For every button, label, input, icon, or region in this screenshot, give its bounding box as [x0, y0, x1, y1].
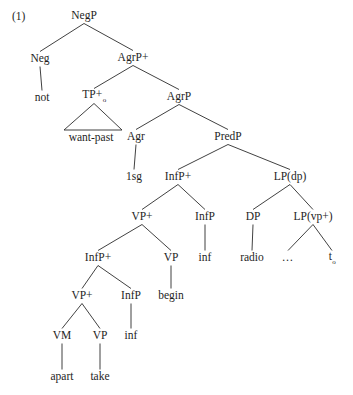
tree-node-want_past: want-past [69, 132, 114, 144]
tree-node-text: AgrP+ [118, 51, 149, 63]
tree-node-lp_vp: LP(vp+) [293, 211, 332, 223]
tree-node-agrp_plus: AgrP+ [118, 52, 149, 64]
tree-node-infp_plus1: InfP+ [165, 171, 191, 183]
tree-edge-lp_vp-to-trace [313, 225, 332, 251]
tree-node-text: LP(vp+) [293, 210, 332, 222]
tree-node-lp_dp: LP(dp) [274, 171, 307, 183]
tree-node-inf1: inf [199, 252, 212, 264]
tp-triangle [64, 104, 122, 131]
tree-node-infp1: InfP [195, 211, 215, 223]
tree-edge-agr-to-onesg [134, 145, 136, 170]
tree-node-vp_take: VP [93, 330, 108, 342]
tree-edge-infp_plus1-to-vp_plus1 [142, 185, 178, 210]
tree-edge-lp_dp-to-dp [253, 185, 290, 210]
tree-node-inf2: inf [125, 330, 138, 342]
tree-node-text: InfP+ [165, 170, 191, 182]
tree-node-text: InfP [121, 289, 141, 301]
tree-node-vp_plus1: VP+ [131, 211, 152, 223]
tree-edge-lp_dp-to-lp_vp [290, 185, 313, 210]
tree-node-not: not [35, 92, 50, 104]
tree-node-neg: Neg [30, 53, 49, 65]
tree-node-text: take [90, 370, 109, 382]
tree-node-trace: to [329, 251, 336, 265]
tree-edge-agrp_plus-to-agrp [133, 66, 179, 90]
tree-edge-infp_plus2-to-infp2 [98, 266, 131, 289]
tree-node-text: VM [53, 329, 72, 341]
syntax-tree-figure: (1) NegPNegnotAgrP+TP+owant-pastAgrPAgr1… [0, 0, 353, 395]
tree-node-take: take [90, 371, 109, 383]
tree-node-text: radio [240, 251, 264, 263]
tree-node-text: LP(dp) [274, 170, 307, 182]
tree-node-infp_plus2: InfP+ [85, 252, 111, 264]
tree-node-ellipsis: … [282, 252, 295, 264]
tree-node-vp_begin: VP [164, 252, 179, 264]
tree-edge-infp_plus1-to-infp1 [178, 185, 205, 210]
tree-edge-agrp-to-predp [179, 105, 228, 130]
tree-node-text: AgrP [167, 90, 191, 102]
tree-edge-dp-to-radio [252, 225, 253, 251]
tree-node-text: Agr [127, 130, 145, 142]
tree-edge-vp_plus2-to-vm [62, 304, 82, 329]
tree-node-text: VP+ [131, 210, 152, 222]
tree-node-text: inf [125, 329, 138, 341]
tree-edge-infp_plus2-to-vp_plus2 [82, 266, 98, 289]
tree-node-agrp: AgrP [167, 91, 191, 103]
example-number: (1) [12, 10, 25, 22]
tree-node-text: DP [246, 210, 261, 222]
tree-node-apart: apart [51, 371, 74, 383]
tree-node-vm: VM [53, 330, 72, 342]
tree-node-text: NegP [71, 9, 97, 21]
tree-node-subscript: o [103, 96, 107, 104]
tree-edge-negp-to-neg [40, 24, 84, 52]
tree-node-text: VP [164, 251, 179, 263]
tree-node-text: apart [51, 370, 74, 382]
tree-node-vp_plus2: VP+ [71, 290, 92, 302]
tree-edge-agrp-to-agr [136, 105, 179, 130]
tree-edge-vp_plus1-to-vp_begin [142, 225, 171, 251]
tree-node-text: begin [158, 289, 184, 301]
tree-edge-vp_plus1-to-infp_plus2 [98, 225, 142, 251]
tree-node-text: InfP+ [85, 251, 111, 263]
tree-node-negp: NegP [71, 10, 97, 22]
tree-node-text: Neg [30, 52, 49, 64]
tree-edge-negp-to-agrp_plus [84, 24, 133, 51]
tree-node-radio: radio [240, 252, 264, 264]
tree-node-predp: PredP [214, 131, 241, 143]
tree-node-text: t [329, 250, 332, 262]
tree-node-text: VP [93, 329, 108, 341]
tree-edge-lp_vp-to-ellipsis [288, 225, 313, 251]
edges-group [40, 24, 332, 370]
tree-node-text: VP+ [71, 289, 92, 301]
tree-node-text: not [35, 91, 50, 103]
tree-edge-predp-to-infp_plus1 [178, 145, 228, 170]
tree-node-onesg: 1sg [126, 171, 142, 183]
tree-node-text: … [282, 251, 295, 263]
tree-edge-agrp_plus-to-tp_plus [94, 66, 133, 89]
tree-node-begin: begin [158, 290, 184, 302]
triangles-group [64, 104, 122, 131]
tree-node-text: TP+ [82, 88, 102, 100]
tree-edge-neg-to-not [40, 67, 42, 91]
tree-edge-vp_plus2-to-vp_take [82, 304, 100, 329]
tree-node-tp_plus: TP+o [82, 89, 105, 103]
tree-node-dp: DP [246, 211, 261, 223]
tree-node-infp2: InfP [121, 290, 141, 302]
tree-node-text: 1sg [126, 170, 142, 182]
tree-node-subscript: o [332, 258, 336, 266]
tree-node-text: inf [199, 251, 212, 263]
tree-node-text: InfP [195, 210, 215, 222]
tree-node-text: PredP [214, 130, 241, 142]
tree-node-agr: Agr [127, 131, 145, 143]
tree-edge-predp-to-lp_dp [228, 145, 290, 170]
tree-node-text: want-past [69, 131, 114, 143]
